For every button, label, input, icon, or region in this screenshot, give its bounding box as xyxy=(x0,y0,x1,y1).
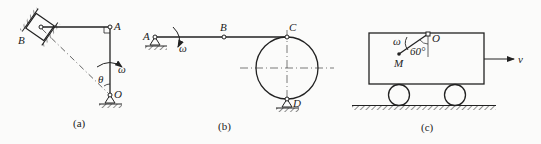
figure-c: O M ω 60° v (c) xyxy=(352,32,523,134)
mechanics-figures: A B O θ ω (a) A B C D ω (b) xyxy=(0,0,541,144)
label-b: B xyxy=(18,34,25,46)
figure-a: A B O θ ω (a) xyxy=(18,7,126,130)
joint-b-b xyxy=(222,35,226,39)
label-o: O xyxy=(114,88,122,100)
cart-body xyxy=(369,33,484,84)
label-b-b: B xyxy=(220,21,227,33)
joint-d xyxy=(285,97,289,101)
label-v: v xyxy=(518,53,523,65)
joint-b xyxy=(39,25,43,29)
caption-c: (c) xyxy=(421,121,434,134)
angle-arc xyxy=(420,40,428,44)
label-d: D xyxy=(292,97,301,109)
label-c: C xyxy=(289,21,297,33)
label-o-c: O xyxy=(432,32,440,44)
wheel-left xyxy=(389,85,410,106)
label-omega-c: ω xyxy=(393,35,401,47)
label-a-b: A xyxy=(142,30,150,42)
label-angle: 60° xyxy=(410,45,426,57)
joint-o xyxy=(108,93,112,97)
joint-a-b xyxy=(153,35,157,39)
ground-o xyxy=(99,104,122,108)
wheel-right xyxy=(445,85,466,106)
ground-a xyxy=(145,46,167,50)
joint-a xyxy=(108,25,112,29)
point-m xyxy=(397,52,401,56)
label-omega-b: ω xyxy=(179,42,187,54)
joint-o-c xyxy=(426,32,430,36)
theta-arc xyxy=(104,84,110,86)
label-a: A xyxy=(113,20,121,32)
ground-c xyxy=(352,106,496,110)
joint-c xyxy=(285,35,289,39)
caption-b: (b) xyxy=(218,120,231,133)
label-m: M xyxy=(393,57,404,69)
label-omega: ω xyxy=(118,63,126,75)
caption-a: (a) xyxy=(73,117,86,130)
figure-b: A B C D ω (b) xyxy=(142,21,334,133)
label-theta: θ xyxy=(98,73,104,85)
